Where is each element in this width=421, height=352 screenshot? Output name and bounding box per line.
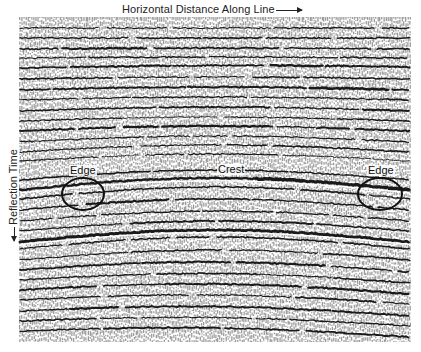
edge-left-label: Edge (69, 165, 97, 176)
edge-right-label: Edge (367, 165, 395, 176)
seismic-section (0, 0, 421, 352)
crest-label: Crest (217, 164, 245, 175)
